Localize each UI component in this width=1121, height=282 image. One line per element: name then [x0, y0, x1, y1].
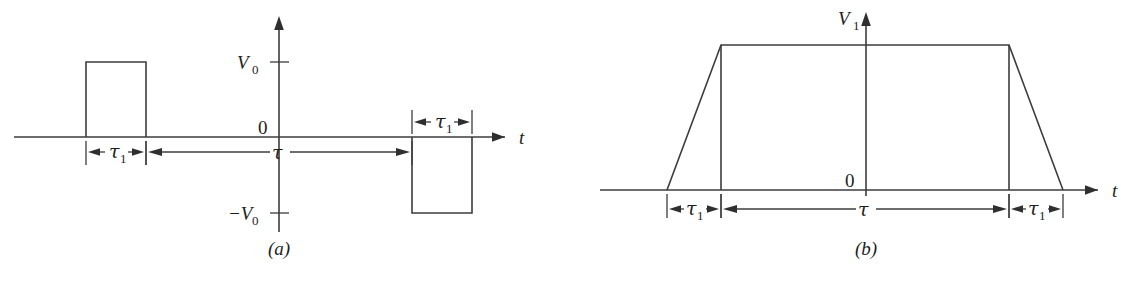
panel-a-tau1-left-label-subscript: 1	[120, 151, 127, 166]
panel-a-dimension-tau1-right: τ 1	[412, 110, 472, 136]
panel-b: τ 1 τ τ 1	[600, 8, 1118, 260]
waveform-figure: τ 1 τ τ 1	[0, 0, 1121, 282]
panel-b-amplitude-label: V	[838, 8, 852, 29]
panel-a-axis-arrowhead	[492, 132, 505, 142]
panel-a-negative-amplitude-label: −V	[228, 203, 255, 224]
panel-a-positive-pulse	[86, 62, 146, 137]
panel-a-tau1-left-label: τ	[109, 140, 120, 162]
panel-a-positive-amplitude-label: V	[237, 52, 251, 73]
figure-container: τ 1 τ τ 1	[0, 0, 1121, 282]
panel-a-voltage-axis	[270, 16, 289, 232]
panel-a-tau1-left-arrow-right	[132, 148, 144, 156]
panel-b-axis-arrowhead	[1085, 185, 1098, 195]
panel-b-tau1-left-arrow-right	[707, 205, 719, 213]
panel-b-tau1-left-label-subscript: 1	[697, 208, 704, 223]
panel-b-tau1-left-label: τ	[686, 197, 697, 219]
panel-b-trapezoid-pulse	[667, 45, 1063, 190]
panel-b-dimension-tau1-right: τ 1	[1009, 194, 1063, 223]
panel-a-positive-pulse-outline	[86, 62, 146, 137]
panel-b-tau-arrow-right	[993, 205, 1007, 213]
panel-a-dimension-tau: τ	[146, 141, 412, 165]
panel-a-tau1-left-arrow-left	[88, 148, 100, 156]
panel-a-origin-label: 0	[258, 117, 268, 138]
panel-b-voltage-axis	[861, 12, 871, 196]
panel-a-dimension-tau1-left: τ 1	[86, 140, 146, 166]
panel-b-dimension-tau: τ	[721, 194, 1009, 220]
panel-b-x-axis-label: t	[1112, 180, 1118, 201]
panel-b-origin-label: 0	[845, 170, 855, 191]
panel-b-tau-arrow-left	[723, 205, 737, 213]
panel-a-tau1-right-arrow-left	[414, 118, 426, 126]
panel-b-tau1-right-label-subscript: 1	[1039, 208, 1046, 223]
panel-a-tau-label: τ	[272, 141, 283, 163]
panel-a-positive-amplitude-label-subscript: 0	[252, 62, 259, 77]
panel-a: τ 1 τ τ 1	[14, 16, 525, 260]
panel-a-tau1-right-label-subscript: 1	[446, 121, 453, 136]
panel-a-tau-arrow-left	[148, 148, 162, 156]
panel-b-trapezoid-outline	[667, 45, 1063, 190]
panel-a-caption: (a)	[268, 238, 290, 260]
panel-b-tau1-left-arrow-left	[669, 205, 681, 213]
panel-a-x-axis-label: t	[519, 127, 525, 148]
panel-a-tau1-right-arrow-right	[458, 118, 470, 126]
panel-a-tau1-right-label: τ	[435, 110, 446, 132]
panel-a-negative-pulse-outline	[412, 137, 472, 213]
panel-b-dimension-tau1-left: τ 1	[667, 194, 721, 223]
panel-b-caption: (b)	[855, 238, 877, 260]
panel-a-tau-arrow-right	[396, 148, 410, 156]
panel-b-tau1-right-arrow-left	[1011, 205, 1023, 213]
panel-a-negative-pulse	[412, 137, 472, 213]
panel-b-tau1-right-arrow-right	[1049, 205, 1061, 213]
panel-a-negative-amplitude-label-subscript: 0	[252, 213, 259, 228]
panel-b-tau-label: τ	[858, 198, 869, 220]
panel-b-vaxis-arrowhead	[861, 12, 871, 26]
panel-b-tau1-right-label: τ	[1028, 197, 1039, 219]
panel-a-vaxis-arrowhead	[274, 16, 284, 30]
panel-b-amplitude-label-subscript: 1	[853, 18, 860, 33]
